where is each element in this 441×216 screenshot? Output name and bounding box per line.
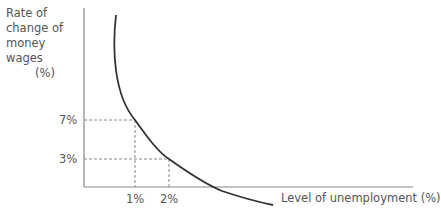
y-tick-3pct: 3%	[59, 152, 77, 166]
reference-lines	[84, 120, 169, 187]
phillips-curve	[114, 15, 273, 205]
x-tick-2pct: 2%	[160, 192, 178, 206]
x-axis-label: Level of unemployment (%)	[281, 191, 441, 205]
x-tick-1pct: 1%	[126, 192, 144, 206]
y-tick-7pct: 7%	[59, 113, 77, 127]
